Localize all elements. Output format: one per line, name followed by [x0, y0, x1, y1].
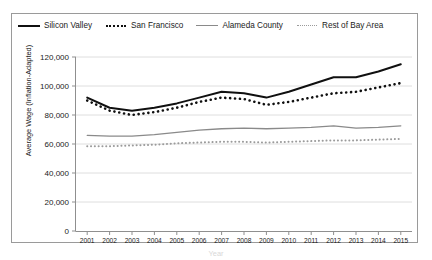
- x-axis-ticks: 2001200220032004200520062007200820092010…: [80, 231, 409, 244]
- x-tick-label: 2009: [259, 237, 274, 244]
- gridlines: [76, 57, 412, 202]
- y-tick-label: 80,000: [45, 111, 70, 120]
- x-tick-label: 2007: [214, 237, 229, 244]
- x-tick-label: 2008: [237, 237, 252, 244]
- y-axis-ticks: 020,00040,00060,00080,000100,000120,000: [40, 53, 76, 236]
- y-tick-label: 20,000: [45, 198, 70, 207]
- y-tick-label: 0: [65, 227, 70, 236]
- x-tick-label: 2005: [169, 237, 184, 244]
- y-tick-label: 40,000: [45, 169, 70, 178]
- x-tick-label: 2006: [192, 237, 207, 244]
- x-tick-label: 2014: [371, 237, 386, 244]
- x-tick-label: 2003: [125, 237, 140, 244]
- x-tick-label: 2001: [80, 237, 95, 244]
- y-tick-label: 60,000: [45, 140, 70, 149]
- x-tick-label: 2013: [349, 237, 364, 244]
- x-tick-label: 2010: [281, 237, 296, 244]
- x-tick-label: 2015: [393, 237, 408, 244]
- x-tick-label: 2004: [147, 237, 162, 244]
- series-line-silicon-valley: [87, 64, 401, 110]
- y-tick-label: 100,000: [40, 82, 69, 91]
- x-tick-label: 2011: [304, 237, 319, 244]
- data-series-group: [87, 64, 401, 146]
- series-line-alameda-county: [87, 126, 401, 136]
- y-tick-label: 120,000: [40, 53, 69, 62]
- x-tick-label: 2002: [102, 237, 117, 244]
- x-tick-label: 2012: [326, 237, 341, 244]
- plot-area: 020,00040,00060,00080,000100,000120,000 …: [0, 0, 432, 260]
- series-line-rest-of-bay-area: [87, 139, 401, 146]
- chart-container: Silicon Valley San Francisco Alameda Cou…: [0, 0, 432, 260]
